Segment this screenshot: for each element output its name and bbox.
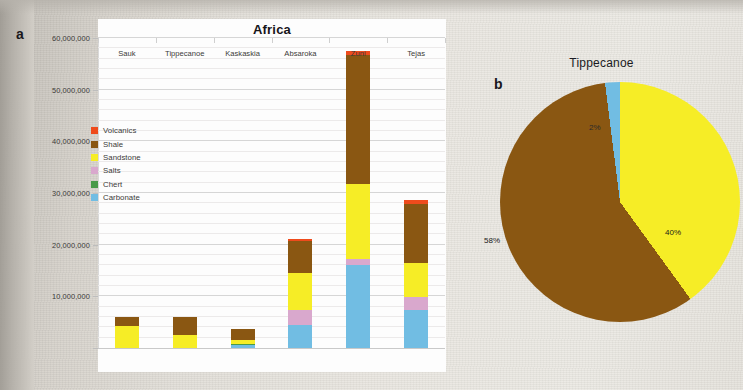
x-axis-label-tippecanoe: Tippecanoe [165,49,204,58]
gridline-minor [98,68,445,69]
x-axis-label-kaskaskia: Kaskaskia [225,49,260,58]
chart-title: Africa [98,22,446,37]
gridline-minor [98,326,445,327]
x-axis-label-sauk: Sauk [118,49,135,58]
bar-segment-sandstone [288,273,312,310]
chart-legend: VolcanicsShaleSandstoneSaltsChertCarbona… [91,124,141,204]
y-axis-tick-label: 40,000,000 [52,137,90,146]
x-axis-tick-mark [387,38,388,43]
pie-chart-title: Tippecanoe [460,56,743,70]
x-axis-tick-mark [329,38,330,43]
y-axis-tick-label: 10,000,000 [52,292,90,301]
legend-swatch-icon [91,181,98,188]
legend-label: Chert [103,180,122,189]
bar-segment-shale [115,317,139,327]
gridline-minor [98,161,445,162]
y-axis-tick-label: 60,000,000 [52,34,90,43]
bar-segment-shale [231,329,255,340]
legend-label: Volcanics [103,126,136,135]
bar-segment-shale [288,241,312,273]
x-axis-tick-mark [156,38,157,43]
bar-segment-chert [231,344,255,346]
legend-item-carbonate[interactable]: Carbonate [91,191,141,204]
legend-item-shale[interactable]: Shale [91,137,141,150]
gridline-minor [98,213,445,214]
gridline-minor [98,151,445,152]
legend-item-salts[interactable]: Salts [91,164,141,177]
gridline-minor [98,47,445,48]
gridline-minor [98,99,445,100]
gridline-minor [98,171,445,172]
legend-label: Carbonate [103,193,140,202]
bar-sauk[interactable] [115,316,139,348]
x-axis-tick-mark [272,38,273,43]
bar-tippecanoe[interactable] [173,316,197,348]
bar-segment-shale [404,204,428,262]
bar-segment-salts [288,310,312,324]
bar-segment-carbonate [288,325,312,348]
bar-tejas[interactable] [404,200,428,348]
gridline-minor [98,130,445,131]
gridline-minor [98,285,445,286]
bar-kaskaskia[interactable] [231,329,255,348]
y-axis-tick-label: 30,000,000 [52,189,90,198]
bar-segment-sandstone [346,184,370,259]
x-axis-line [98,348,445,349]
legend-swatch-icon [91,141,98,148]
x-axis-tick-mark [214,38,215,43]
gridline-minor [98,182,445,183]
legend-item-chert[interactable]: Chert [91,178,141,191]
y-axis-tick-mark [93,90,98,91]
legend-swatch-icon [91,167,98,174]
legend-label: Shale [103,140,123,149]
y-axis-tick-mark [93,296,98,297]
panel-label-a: a [16,26,24,42]
legend-label: Sandstone [103,153,141,162]
gridline-minor [98,223,445,224]
gridline-major [98,140,445,141]
gridline-minor [98,254,445,255]
pie-slice-label-shale: 58% [484,236,500,245]
gridline-minor [98,264,445,265]
gridline-minor [98,275,445,276]
gridline-major [98,295,445,296]
plot-area: 60,000,00050,000,00040,000,00030,000,000… [98,38,445,348]
gridline-minor [98,316,445,317]
panel-label-b: b [494,76,503,92]
x-axis-label-tejas: Tejas [407,49,425,58]
gridline-minor [98,306,445,307]
gridline-minor [98,58,445,59]
bar-segment-salts [404,297,428,310]
pie-graphic [500,82,740,322]
x-axis-label-absaroka: Absaroka [284,49,316,58]
bar-segment-sandstone [404,263,428,298]
y-axis-tick-label: 20,000,000 [52,240,90,249]
x-axis-tick-mark [445,38,446,43]
y-axis-tick-mark [93,245,98,246]
bar-segment-carbonate [231,345,255,348]
bar-segment-sandstone [115,326,139,348]
bar-segment-sandstone [173,335,197,348]
bar-segment-carbonate [404,310,428,348]
x-axis-label-zuni: Zuni [351,49,366,58]
legend-swatch-icon [91,127,98,134]
legend-swatch-icon [91,154,98,161]
bar-chart-africa: Africa 60,000,00050,000,00040,000,00030,… [36,19,446,372]
bar-segment-sandstone [231,340,255,344]
pie-slice-label-carbonate: 2% [589,123,601,132]
y-axis-tick-label: 50,000,000 [52,85,90,94]
gridline-major [98,192,445,193]
bar-absaroka[interactable] [288,239,312,348]
legend-label: Salts [103,166,121,175]
gridline-major [98,244,445,245]
figure-page: a b Africa 60,000,00050,000,00040,000,00… [0,0,743,390]
gridline-minor [98,109,445,110]
bar-zuni[interactable] [346,51,370,348]
bar-segment-volcanics [404,200,428,204]
legend-swatch-icon [91,194,98,201]
legend-item-volcanics[interactable]: Volcanics [91,124,141,137]
gridline-minor [98,120,445,121]
legend-item-sandstone[interactable]: Sandstone [91,151,141,164]
bar-segment-volcanics [288,239,312,241]
bar-segment-shale [346,55,370,184]
